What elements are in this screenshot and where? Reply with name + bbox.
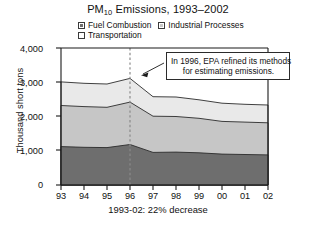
annotation-line-2: for estimating emissions.	[171, 66, 286, 76]
chart-caption: 1993-02: 22% decrease	[0, 204, 316, 215]
y-axis-ticks	[56, 48, 61, 185]
area-series-group	[61, 78, 268, 185]
plot-area	[0, 0, 316, 225]
x-axis-ticks	[61, 185, 268, 190]
annotation-arrow-icon	[141, 63, 164, 77]
annotation-line-1: In 1996, EPA refined its methods	[171, 56, 286, 66]
chart-annotation: In 1996, EPA refined its methods for est…	[166, 52, 290, 80]
chart-figure: PM10 Emissions, 1993–2002 Fuel Combustio…	[0, 0, 316, 225]
